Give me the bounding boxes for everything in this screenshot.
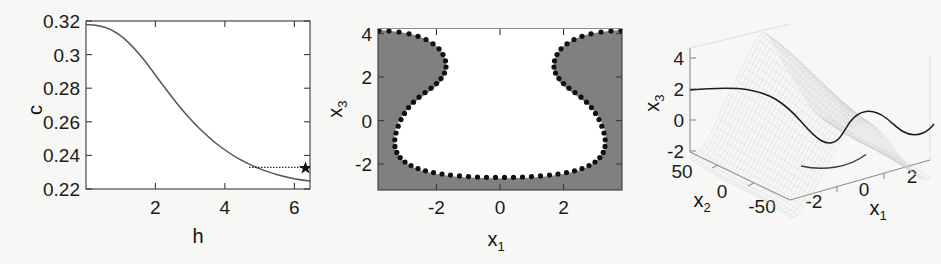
middle-panel-region-plot: 4 2 0 -2 -2 0 2 x3 x1 bbox=[324, 24, 624, 255]
figure-svg: 0.32 0.3 0.28 0.26 0.24 0.22 2 4 6 c h bbox=[0, 0, 941, 264]
right-panel-surface-plot: 4 2 0 -2 50 0 -50 -2 0 2 x3 x2 bbox=[641, 24, 934, 223]
svg-text:x3: x3 bbox=[324, 100, 350, 117]
right-x-axis-label-sub: 1 bbox=[879, 208, 886, 223]
middle-y-axis-label-sub: 3 bbox=[335, 100, 350, 107]
right-y-axis-label-sub: 2 bbox=[703, 200, 710, 215]
right-ytick-50: 50 bbox=[671, 161, 692, 182]
middle-ytick-0: 0 bbox=[361, 111, 372, 132]
left-x-axis-label: h bbox=[192, 225, 203, 247]
left-xtick-2: 2 bbox=[150, 197, 161, 218]
left-ytick-0-26: 0.26 bbox=[43, 112, 80, 133]
right-ztick-neg2: -2 bbox=[667, 141, 684, 162]
right-xtick-0: 0 bbox=[859, 179, 870, 200]
mesh-gridline bbox=[722, 110, 822, 176]
right-z-axis-label: x3 bbox=[641, 94, 667, 111]
right-z-ticks bbox=[690, 58, 696, 151]
left-xtick-4: 4 bbox=[220, 197, 231, 218]
right-x-axis-label-base: x bbox=[869, 197, 879, 219]
left-ytick-0-22: 0.22 bbox=[43, 179, 80, 200]
left-ytick-0-32: 0.32 bbox=[43, 11, 80, 32]
left-y-axis-label: c bbox=[24, 105, 46, 115]
middle-ytick-neg2: -2 bbox=[355, 154, 372, 175]
right-ztick-2: 2 bbox=[673, 79, 684, 100]
mesh-gridline bbox=[806, 99, 906, 163]
middle-xtick-0: 0 bbox=[495, 197, 506, 218]
left-ytick-0-28: 0.28 bbox=[43, 78, 80, 99]
middle-x-axis-label-sub: 1 bbox=[497, 239, 504, 254]
mesh-gridline bbox=[753, 91, 893, 195]
mesh-gridline bbox=[757, 39, 857, 125]
middle-y-axis-label: x3 bbox=[324, 100, 350, 117]
middle-y-axis-label-base: x bbox=[324, 108, 346, 118]
left-ytick-0-24: 0.24 bbox=[43, 145, 80, 166]
right-ztick-4: 4 bbox=[673, 48, 684, 69]
right-y-axis-label: x2 bbox=[693, 189, 710, 215]
middle-ytick-2: 2 bbox=[361, 67, 372, 88]
middle-ytick-4: 4 bbox=[361, 24, 372, 45]
right-z-axis-label-sub: 3 bbox=[652, 94, 667, 101]
mesh-gridline bbox=[802, 94, 902, 159]
svg-text:x3: x3 bbox=[641, 94, 667, 111]
right-y-axis-label-base: x bbox=[693, 189, 703, 211]
left-ytick-0-3: 0.3 bbox=[54, 45, 80, 66]
figure-container: 0.32 0.3 0.28 0.26 0.24 0.22 2 4 6 c h bbox=[0, 0, 941, 264]
left-xtick-6: 6 bbox=[289, 197, 300, 218]
middle-x-axis-label-base: x bbox=[487, 228, 497, 250]
middle-x-axis-label: x1 bbox=[487, 228, 504, 254]
right-bowl-front-rim bbox=[801, 155, 866, 169]
right-xtick-neg2: -2 bbox=[806, 191, 823, 212]
right-z-axis-label-base: x bbox=[641, 102, 663, 112]
left-panel-line-chart: 0.32 0.3 0.28 0.26 0.24 0.22 2 4 6 c h bbox=[24, 11, 312, 247]
middle-xtick-neg2: -2 bbox=[428, 197, 445, 218]
right-ztick-0: 0 bbox=[673, 110, 684, 131]
left-plot-box bbox=[86, 21, 310, 189]
right-ytick-0: 0 bbox=[717, 181, 728, 202]
right-x-axis-label: x1 bbox=[869, 197, 886, 223]
middle-xtick-2: 2 bbox=[558, 197, 569, 218]
